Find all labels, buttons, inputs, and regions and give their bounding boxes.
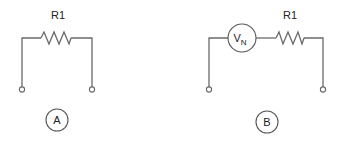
wire-right-a <box>71 38 92 87</box>
circuit-a: R1 A <box>19 9 94 131</box>
wire-right-b <box>304 38 323 87</box>
circuit-label-a: A <box>53 114 61 126</box>
wire-left-a <box>22 38 41 89</box>
circuit-b: R1 VN B <box>206 9 325 133</box>
circuit-label-b: B <box>263 116 270 128</box>
terminal-right-a <box>89 87 94 92</box>
resistor-r1-a <box>41 32 71 44</box>
wire-left-b <box>209 38 228 87</box>
terminal-right-b <box>320 87 325 92</box>
voltage-source-label-sub: N <box>241 38 247 47</box>
schematic-canvas: R1 A R1 VN B <box>0 0 339 144</box>
resistor-label-r1-b: R1 <box>283 9 297 21</box>
resistor-r1-b <box>276 32 304 44</box>
terminal-left-a <box>19 87 24 92</box>
terminal-left-b <box>206 87 211 92</box>
resistor-label-r1-a: R1 <box>51 9 65 21</box>
